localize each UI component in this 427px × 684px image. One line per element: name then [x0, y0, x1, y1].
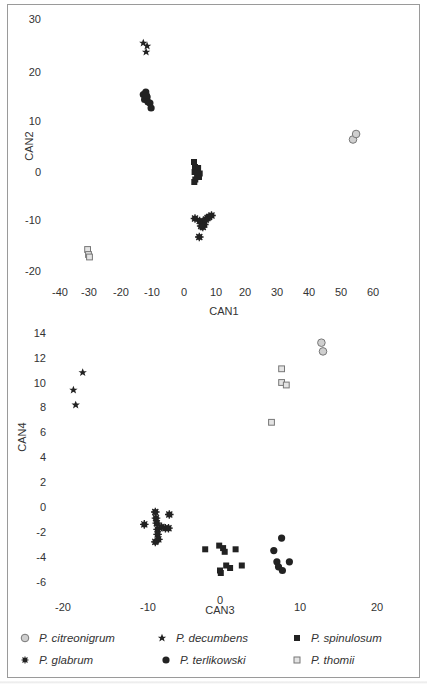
- square-marker: [191, 179, 197, 185]
- circle-marker: [278, 535, 285, 542]
- y-tick: 12: [34, 352, 46, 364]
- x-tick: 20: [371, 601, 383, 613]
- legend-label: P. terlikowski: [180, 654, 246, 666]
- top-plot-x-ticks: -40 -30 -20 -10 0 10 20 30 40 50 60: [52, 286, 379, 298]
- x-tick: 30: [271, 286, 283, 298]
- legend-label: P. spinulosum: [311, 632, 382, 644]
- x-tick: -40: [52, 286, 68, 298]
- y-tick: 6: [40, 426, 46, 438]
- x-tick: 60: [367, 286, 379, 298]
- x-tick: -30: [81, 286, 97, 298]
- legend-item-citreonigrum: P. citreonigrum: [20, 632, 115, 644]
- y-tick: 2: [40, 476, 46, 488]
- y-tick: 14: [34, 327, 46, 339]
- open-square-marker: [87, 254, 93, 260]
- square-marker: [218, 570, 224, 576]
- open-circle-marker: [352, 130, 360, 138]
- top-plot-points: [85, 39, 360, 260]
- legend: P. citreonigrum P. decumbens P. spinulos…: [20, 632, 415, 674]
- x-tick: -20: [55, 601, 71, 613]
- legend-item-thomii: P. thomii: [292, 654, 354, 666]
- circle-marker: [286, 558, 293, 565]
- circle-marker: [279, 567, 286, 574]
- asterisk-marker: [195, 233, 204, 242]
- scatter-plots: 30 20 10 0 -10 -20 CAN2 -40 -30 -20 -10 …: [0, 0, 427, 684]
- star-marker: [72, 401, 80, 409]
- legend-label: P. decumbens: [176, 632, 248, 644]
- legend-label: P. citreonigrum: [39, 632, 115, 644]
- y-tick: -6: [36, 576, 46, 588]
- cut-off-caption: [0, 679, 427, 684]
- top-x-axis-label: CAN1: [209, 305, 238, 317]
- legend-item-terlikowski: P. terlikowski: [161, 654, 246, 666]
- open-circle-marker: [319, 348, 327, 356]
- circle-marker: [270, 547, 277, 554]
- legend-item-decumbens: P. decumbens: [157, 632, 248, 644]
- circle-marker: [143, 92, 150, 99]
- y-tick: -20: [25, 265, 41, 277]
- star-marker: [79, 368, 87, 376]
- y-tick: 20: [29, 66, 41, 78]
- square-marker: [239, 563, 245, 569]
- y-tick: 10: [34, 377, 46, 389]
- x-tick: 50: [335, 286, 347, 298]
- circle-filled-icon: [161, 655, 171, 665]
- y-tick: -4: [36, 551, 46, 563]
- square-marker: [222, 549, 228, 555]
- y-tick: 0: [40, 501, 46, 513]
- legend-item-glabrum: P. glabrum: [20, 654, 93, 666]
- asterisk-marker: [140, 520, 149, 529]
- bottom-x-axis-label: CAN3: [205, 604, 234, 616]
- top-y-axis-label: CAN2: [23, 131, 35, 160]
- y-tick: 4: [40, 451, 46, 463]
- open-circle-marker: [318, 339, 326, 347]
- open-square-marker: [269, 419, 275, 425]
- x-tick: -10: [144, 286, 160, 298]
- open-square-marker: [283, 382, 289, 388]
- legend-label: P. thomii: [311, 654, 354, 666]
- square-marker: [202, 546, 208, 552]
- star-icon: [157, 633, 167, 643]
- x-tick: 10: [294, 601, 306, 613]
- circle-open-icon: [20, 633, 30, 643]
- circle-marker: [148, 104, 155, 111]
- x-tick: 10: [210, 286, 222, 298]
- y-tick: 30: [29, 13, 41, 25]
- x-tick: -20: [113, 286, 129, 298]
- bottom-plot-y-ticks: 14 12 10 8 6 4 2 0 -2 -4 -6: [34, 327, 46, 588]
- square-open-icon: [292, 655, 302, 665]
- square-marker: [233, 546, 239, 552]
- asterisk-icon: [20, 655, 30, 665]
- bottom-plot-points: [69, 339, 327, 576]
- open-square-marker: [279, 366, 285, 372]
- x-tick: -10: [140, 601, 156, 613]
- bottom-y-axis-label: CAN4: [16, 422, 28, 451]
- square-filled-icon: [292, 633, 302, 643]
- x-tick: 0: [181, 286, 187, 298]
- y-tick: 0: [35, 166, 41, 178]
- y-tick: 8: [40, 401, 46, 413]
- legend-item-spinulosum: P. spinulosum: [292, 632, 382, 644]
- x-tick: 40: [303, 286, 315, 298]
- star-marker: [69, 386, 77, 394]
- y-tick: -2: [36, 526, 46, 538]
- x-tick: 20: [239, 286, 251, 298]
- square-marker: [227, 565, 233, 571]
- asterisk-marker: [165, 510, 174, 519]
- y-tick: 10: [29, 115, 41, 127]
- legend-label: P. glabrum: [39, 654, 93, 666]
- y-tick: -10: [25, 214, 41, 226]
